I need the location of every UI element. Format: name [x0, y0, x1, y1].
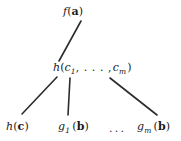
edge-mid-to-leaf-g1: [68, 78, 70, 115]
tree-node-mid: h(c1, . . . ,cm ): [53, 62, 132, 75]
node-leaf-gm-close-paren: ): [166, 120, 170, 133]
node-leaf-gm-open-paren: (: [151, 120, 158, 133]
edge-root-to-mid: [59, 21, 81, 61]
node-leaf-gm-arg: b: [158, 120, 166, 133]
tree-node-leaf-gm: gm (b): [137, 121, 170, 134]
node-leaf-g1-open-paren: (: [70, 120, 77, 133]
node-leaf-hc-close-paren: ): [24, 120, 28, 133]
node-leaf-g1-close-paren: ): [84, 120, 88, 133]
tree-row-ellipsis: ...: [109, 123, 126, 134]
tree-node-root: f(a): [63, 6, 83, 17]
node-mid-close-paren: ): [126, 61, 132, 74]
derivation-tree-diagram: f(a) h(c1, . . . ,cm ) h(c) g1 (b) ... g…: [0, 0, 181, 141]
tree-node-leaf-hc: h(c): [6, 121, 29, 132]
edge-mid-to-leaf-hc: [22, 77, 57, 114]
node-mid-inline-ellipsis: , . . . ,: [76, 61, 113, 74]
edge-mid-to-leaf-gm: [110, 78, 157, 115]
tree-node-leaf-g1: g1 (b): [58, 121, 89, 134]
node-root-arg: a: [72, 5, 79, 18]
node-root-close-paren: ): [79, 5, 83, 18]
